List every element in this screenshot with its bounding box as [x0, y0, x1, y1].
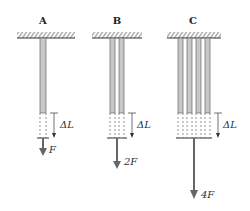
panel-c: C 4F ΔL [167, 15, 237, 200]
ceiling-hatch [167, 32, 221, 38]
rod [110, 38, 115, 113]
force-label: F [48, 144, 57, 155]
ceiling-hatch [92, 32, 142, 38]
force-arrow-icon [113, 161, 121, 169]
panel-a: A F ΔL [17, 15, 75, 156]
rod [40, 38, 46, 113]
rod [119, 38, 124, 113]
panel-b: B 2F ΔL [92, 15, 151, 169]
panel-label-b: B [113, 15, 121, 26]
force-label: 4F [200, 189, 215, 200]
force-arrow-icon [39, 148, 47, 156]
ceiling-hatch [17, 32, 75, 38]
diagram: A F ΔL B 2F ΔL C [0, 0, 250, 211]
force-arrow-icon [190, 190, 198, 199]
panel-label-c: C [189, 15, 197, 26]
rod [205, 38, 210, 113]
delta-arrow-icon [216, 133, 220, 138]
delta-arrow-icon [130, 133, 134, 138]
delta-label: ΔL [136, 119, 151, 130]
delta-label: ΔL [222, 119, 237, 130]
delta-arrow-icon [52, 133, 56, 138]
panel-label-a: A [38, 15, 47, 26]
rod [178, 38, 183, 113]
rod [187, 38, 192, 113]
delta-label: ΔL [59, 119, 74, 130]
rod [196, 38, 201, 113]
force-label: 2F [123, 156, 138, 167]
